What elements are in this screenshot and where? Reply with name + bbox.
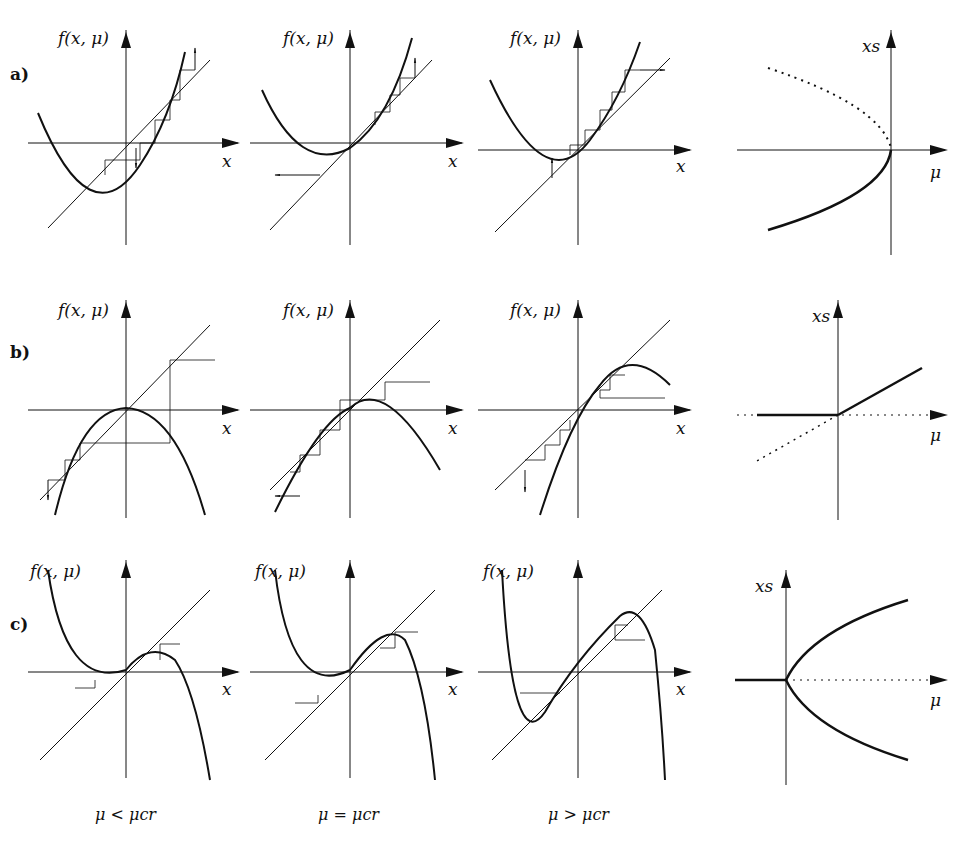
stable-branch (768, 150, 891, 230)
x-axis-label: x (448, 418, 458, 438)
x-axis-arrow-icon (674, 667, 692, 677)
y-axis-label: f(x, μ) (281, 300, 334, 320)
x-axis-arrow-icon (930, 675, 948, 685)
y-axis-arrow-icon (781, 572, 791, 588)
x-axis-arrow-icon (446, 405, 464, 415)
y-axis-label: f(x, μ) (281, 28, 334, 48)
caption-above: μ > μcr (548, 805, 610, 824)
x-axis-label: x (222, 151, 232, 171)
y-axis-label: f(x, μ) (28, 561, 81, 581)
bif-y-label: xs (812, 306, 831, 326)
unstable-branch (755, 415, 838, 462)
x-axis-arrow-icon (222, 667, 240, 677)
x-axis-arrow-icon (674, 405, 692, 415)
x-axis-label: x (676, 156, 686, 176)
panel-c3-map: f(x, μ) x (478, 560, 692, 780)
x-axis-label: x (448, 151, 458, 171)
row-label-a: a) (10, 64, 29, 84)
x-axis-label: x (676, 679, 686, 699)
x-axis-arrow-icon (446, 667, 464, 677)
x-axis-arrow-icon (446, 138, 464, 148)
y-axis-arrow-icon (886, 32, 896, 48)
stable-branch (786, 600, 908, 760)
y-axis-arrow-icon (573, 562, 583, 578)
x-axis-label: x (222, 679, 232, 699)
y-axis-label: f(x, μ) (481, 561, 534, 581)
y-axis-arrow-icon (573, 32, 583, 48)
row-c: c) f(x, μ) x f(x, μ) x (10, 560, 948, 785)
x-axis-label: x (676, 418, 686, 438)
bif-y-label: xs (862, 36, 881, 56)
y-axis-arrow-icon (833, 302, 843, 318)
row-a: a) f(x, μ) x f(x, μ) x (10, 28, 948, 255)
panel-a2-map: f(x, μ) x (250, 28, 464, 245)
y-axis-arrow-icon (121, 32, 131, 48)
row-b: b) f(x, μ) x f(x, μ) x (10, 300, 948, 520)
panel-b4-bifurcation: xs μ (737, 300, 948, 520)
y-axis-arrow-icon (345, 562, 355, 578)
panel-b1-map: f(x, μ) x (28, 300, 240, 518)
y-axis-label: f(x, μ) (253, 561, 306, 581)
bif-x-label: μ (930, 425, 941, 445)
row-label-b: b) (10, 342, 30, 362)
stable-branch (838, 368, 922, 415)
panel-c1-map: f(x, μ) x (28, 560, 240, 780)
panel-c4-bifurcation: xs μ (735, 570, 948, 785)
panel-a3-map: f(x, μ) x (478, 28, 692, 245)
x-axis-arrow-icon (222, 138, 240, 148)
panel-b2-map: f(x, μ) x (250, 300, 464, 518)
caption-below: μ < μcr (95, 805, 157, 824)
x-axis-arrow-icon (674, 145, 692, 155)
y-axis-arrow-icon (345, 32, 355, 48)
y-axis-label: f(x, μ) (508, 28, 561, 48)
y-axis-arrow-icon (573, 302, 583, 318)
x-axis-arrow-icon (930, 145, 948, 155)
panel-c2-map: f(x, μ) x (250, 560, 464, 780)
y-axis-label: f(x, μ) (56, 28, 109, 48)
y-axis-arrow-icon (121, 562, 131, 578)
x-axis-arrow-icon (222, 405, 240, 415)
panel-b3-map: f(x, μ) x (478, 300, 692, 518)
y-axis-arrow-icon (121, 302, 131, 318)
y-axis-arrow-icon (345, 302, 355, 318)
x-axis-arrow-icon (930, 410, 948, 420)
bif-x-label: μ (930, 162, 941, 182)
unstable-branch (768, 68, 891, 148)
row-label-c: c) (10, 614, 28, 634)
x-axis-label: x (448, 679, 458, 699)
panel-a1-map: f(x, μ) x (28, 28, 240, 245)
bif-x-label: μ (930, 690, 941, 710)
x-axis-label: x (222, 418, 232, 438)
y-axis-label: f(x, μ) (56, 300, 109, 320)
panel-a4-bifurcation: xs μ (737, 30, 948, 255)
bif-y-label: xs (755, 576, 774, 596)
bifurcation-figure: a) f(x, μ) x f(x, μ) x (0, 0, 968, 853)
y-axis-label: f(x, μ) (508, 300, 561, 320)
caption-equal: μ = μcr (318, 805, 380, 824)
